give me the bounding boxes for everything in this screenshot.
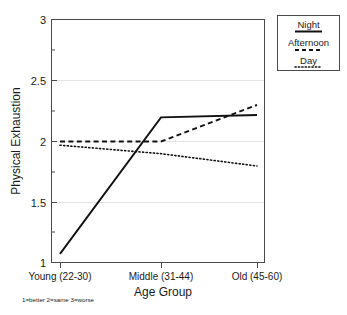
x-axis-ticks: [61, 263, 258, 269]
legend-label-night: Night: [297, 19, 320, 30]
x-axis-title: Age Group: [134, 285, 192, 299]
y-tick-label-1: 1: [40, 257, 46, 269]
x-tick-label-old: Old (45-60): [232, 271, 283, 282]
chart-footnote: 1=better 2=same 3=worse: [22, 296, 95, 303]
legend-label-afternoon: Afternoon: [288, 37, 329, 48]
y-tick-labels: 3 2.5 2 1.5 1: [31, 14, 46, 269]
x-tick-labels: Young (22-30) Middle (31-44) Old (45-60): [28, 271, 282, 282]
y-tick-label-3: 3: [40, 14, 46, 26]
legend-label-day: Day: [300, 55, 317, 66]
y-tick-label-2: 2: [40, 136, 46, 148]
chart-legend: Night Afternoon Day: [278, 16, 340, 71]
x-tick-label-young: Young (22-30): [28, 271, 91, 282]
y-axis-title: Physical Exhaustion: [9, 87, 23, 194]
chart-figure: 3 2.5 2 1.5 1 Young (22-30) Middle (31-4…: [0, 0, 347, 315]
y-tick-label-2-5: 2.5: [31, 75, 46, 87]
y-tick-label-1-5: 1.5: [31, 197, 46, 209]
x-tick-label-middle: Middle (31-44): [129, 271, 193, 282]
plot-background: [51, 19, 265, 262]
line-chart: 3 2.5 2 1.5 1 Young (22-30) Middle (31-4…: [0, 0, 347, 315]
